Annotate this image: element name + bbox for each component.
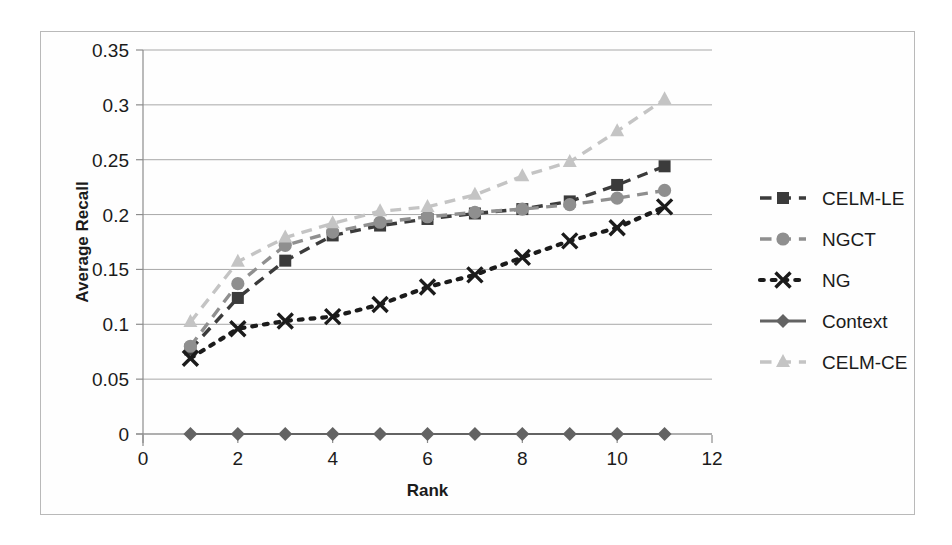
data-point (373, 297, 388, 312)
legend-item-label: Context (822, 311, 888, 332)
y-axis-title: Average Recall (73, 181, 92, 302)
data-point (468, 187, 482, 200)
data-point (231, 427, 245, 441)
legend-item-label: NG (822, 270, 851, 291)
data-point (232, 292, 244, 304)
data-point (611, 179, 623, 191)
data-point (610, 220, 625, 235)
legend-item-label: CELM-LE (822, 188, 904, 209)
y-axis-tick-label: 0.2 (103, 205, 129, 226)
gridlines: 00.050.10.150.20.250.30.35 (92, 40, 712, 445)
x-axis-ticks: 024681012 (138, 435, 723, 469)
data-point (611, 192, 624, 205)
y-axis-tick-label: 0.15 (92, 259, 129, 280)
data-point (421, 210, 434, 223)
data-point (515, 168, 529, 181)
legend-marker-sample (776, 314, 790, 328)
data-point (184, 340, 197, 353)
data-point (658, 427, 672, 441)
data-point (373, 427, 387, 441)
series-celm-ce (183, 91, 671, 327)
data-point (562, 233, 577, 248)
data-point (658, 91, 672, 104)
legend-item-context[interactable]: Context (760, 311, 888, 332)
series-context (183, 427, 671, 441)
x-axis-tick-label: 2 (233, 448, 244, 469)
x-axis-tick-label: 10 (607, 448, 628, 469)
series-line (190, 166, 664, 349)
data-point (373, 203, 387, 216)
legend-item-celm-le[interactable]: CELM-LE (760, 188, 904, 209)
data-point (326, 427, 340, 441)
data-point (563, 427, 577, 441)
chart-plot-area: 00.050.10.150.20.250.30.35024681012RankA… (0, 0, 952, 545)
data-point (515, 427, 529, 441)
data-point (231, 277, 244, 290)
y-axis-tick-label: 0.3 (103, 95, 129, 116)
legend-item-celm-ce[interactable]: CELM-CE (760, 352, 908, 373)
chart-figure: 00.050.10.150.20.250.30.35024681012RankA… (0, 0, 952, 545)
data-point (659, 160, 671, 172)
y-axis-tick-label: 0.35 (92, 40, 129, 61)
x-axis-title: Rank (407, 481, 449, 500)
y-axis-tick-label: 0.05 (92, 369, 129, 390)
x-axis-tick-label: 0 (138, 448, 149, 469)
y-axis-tick-label: 0.1 (103, 314, 129, 335)
data-point (279, 255, 291, 267)
x-axis-tick-label: 6 (422, 448, 433, 469)
data-point (183, 427, 197, 441)
data-point (657, 199, 672, 214)
legend-marker-sample (776, 232, 789, 245)
legend-item-label: NGCT (822, 229, 876, 250)
y-axis-tick-label: 0.25 (92, 150, 129, 171)
legend-marker-sample (777, 192, 789, 204)
data-point (516, 202, 529, 215)
legend-item-ngct[interactable]: NGCT (760, 229, 876, 250)
legend: CELM-LENGCTNGContextCELM-CE (760, 188, 908, 373)
legend-item-ng[interactable]: NG (760, 270, 851, 291)
data-point (610, 427, 624, 441)
data-point (563, 198, 576, 211)
x-axis-tick-label: 8 (517, 448, 528, 469)
data-point (468, 206, 481, 219)
data-point (468, 427, 482, 441)
y-axis-tick-label: 0 (118, 424, 129, 445)
x-axis-tick-label: 12 (701, 448, 722, 469)
x-axis-tick-label: 4 (327, 448, 338, 469)
data-point (373, 216, 386, 229)
data-point (658, 184, 671, 197)
data-point (278, 427, 292, 441)
series-line (190, 207, 664, 358)
legend-item-label: CELM-CE (822, 352, 908, 373)
data-point (421, 427, 435, 441)
